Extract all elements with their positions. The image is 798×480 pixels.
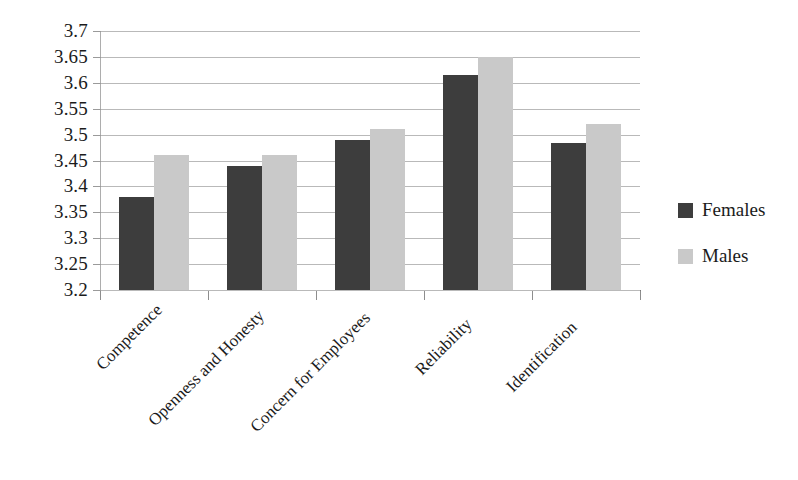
legend-item-males: Males bbox=[678, 246, 796, 266]
legend-item-females: Females bbox=[678, 200, 796, 220]
legend-label: Males bbox=[702, 246, 748, 266]
bar-chart: 3.73.653.63.553.53.453.43.353.33.253.2 C… bbox=[0, 0, 798, 480]
y-tickmark bbox=[93, 161, 101, 162]
y-tickmark bbox=[93, 57, 101, 58]
x-tick-label: Reliability bbox=[412, 315, 475, 378]
x-tick-label: Concern for Employees bbox=[247, 309, 374, 436]
y-tickmark bbox=[93, 109, 101, 110]
y-tickmark bbox=[93, 212, 101, 213]
y-tickmark bbox=[93, 83, 101, 84]
legend-label: Females bbox=[702, 200, 765, 220]
x-tickmark bbox=[424, 291, 425, 300]
chart-legend: FemalesMales bbox=[678, 200, 796, 292]
x-tickmark bbox=[208, 291, 209, 300]
y-tickmark bbox=[93, 186, 101, 187]
x-tick-label: Competence bbox=[93, 300, 166, 373]
y-tickmark bbox=[93, 31, 101, 32]
y-tickmark bbox=[93, 135, 101, 136]
x-tickmark bbox=[316, 291, 317, 300]
legend-swatch-icon bbox=[678, 249, 693, 264]
y-tickmark bbox=[93, 238, 101, 239]
x-tickmark bbox=[100, 291, 101, 300]
x-tickmark bbox=[532, 291, 533, 300]
x-tickmark bbox=[640, 291, 641, 300]
x-tick-label: Openness and Honesty bbox=[145, 307, 268, 430]
legend-swatch-icon bbox=[678, 203, 693, 218]
y-tickmark bbox=[93, 264, 101, 265]
x-tick-label: Identification bbox=[503, 318, 580, 395]
